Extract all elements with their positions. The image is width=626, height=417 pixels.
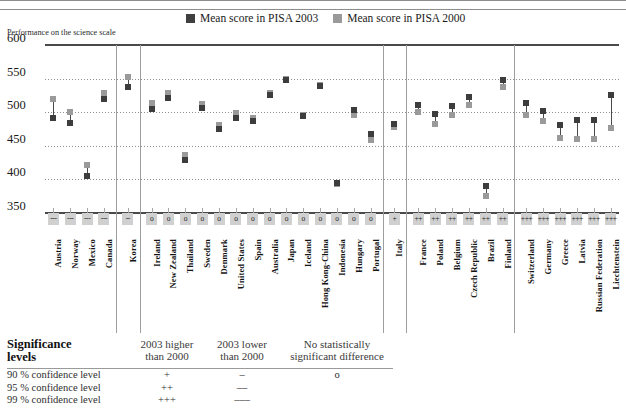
significance-marker: o (197, 213, 208, 225)
data-point-pisa-2003 (67, 120, 73, 126)
category-column-france[interactable]: ++France (410, 213, 426, 225)
category-column-norway[interactable]: ---Norway (62, 213, 78, 225)
axis-tick-mark (337, 208, 338, 213)
data-point-pisa-2003 (391, 121, 397, 127)
axis-tick-mark (70, 208, 71, 213)
category-label: Hungary (354, 239, 364, 273)
data-point-pisa-2000 (449, 112, 455, 118)
data-point-pisa-2000 (432, 121, 438, 127)
axis-tick-mark (486, 208, 487, 213)
series-legend: Mean score in PISA 2003 Mean score in PI… (186, 11, 465, 25)
category-column-germany[interactable]: +++Germany (535, 213, 551, 225)
axis-tick-mark (128, 208, 129, 213)
category-column-united-states[interactable]: oUnited States (228, 213, 244, 225)
category-column-thailand[interactable]: oThailand (177, 213, 193, 225)
group-separator-label-3 (383, 205, 384, 333)
data-point-pisa-2003 (283, 77, 289, 83)
data-point-pisa-2003 (415, 102, 421, 108)
significance-rows: 90 % confidence level+–o95 % confidence … (7, 369, 397, 407)
data-point-pisa-2003 (500, 77, 506, 83)
category-column-indonesia[interactable]: oIndonesia (329, 213, 345, 225)
axis-tick-mark (469, 208, 470, 213)
gridline-500 (45, 112, 619, 113)
axis-tick-mark (611, 208, 612, 213)
data-point-pisa-2003 (591, 117, 597, 123)
data-point-pisa-2003 (182, 157, 188, 163)
category-column-denmark[interactable]: oDenmark (211, 213, 227, 225)
category-column-new-zealand[interactable]: oNew Zealand (160, 213, 176, 225)
significance-marker: o (348, 213, 359, 225)
axis-tick-mark (452, 208, 453, 213)
data-point-pisa-2003 (199, 105, 205, 111)
significance-marker: o (331, 213, 342, 225)
category-column-canada[interactable]: ---Canada (96, 213, 112, 225)
col-higher-line1: 2003 higher (129, 338, 205, 350)
significance-marker: +++ (538, 213, 549, 225)
category-column-liechtenstein[interactable]: +++Liechtenstein (603, 213, 619, 225)
significance-col-header-higher: 2003 higher than 2000 (129, 338, 205, 362)
category-column-brazil[interactable]: ++Brazil (478, 213, 494, 225)
data-point-pisa-2000 (523, 112, 529, 118)
category-label: Denmark (219, 239, 229, 275)
category-label: United States (236, 239, 246, 289)
data-point-pisa-2000 (415, 109, 421, 115)
category-column-switzerland[interactable]: +++Switzerland (518, 213, 534, 225)
category-column-iceland[interactable]: oIceland (295, 213, 311, 225)
axis-tick-mark (219, 208, 220, 213)
category-column-greece[interactable]: +++Greece (552, 213, 568, 225)
category-column-poland[interactable]: ++Poland (427, 213, 443, 225)
axis-tick-mark (594, 208, 595, 213)
category-label: Iceland (303, 239, 313, 267)
axis-tick-mark (53, 208, 54, 213)
category-column-ireland[interactable]: oIreland (144, 213, 160, 225)
data-point-pisa-2003 (149, 106, 155, 112)
data-point-pisa-2000 (500, 84, 506, 90)
significance-title-line2: levels (7, 351, 129, 364)
category-column-austria[interactable]: ---Austria (45, 213, 61, 225)
significance-row: 95 % confidence level++–– (7, 382, 397, 395)
significance-symbol-higher: ++ (129, 382, 205, 395)
legend-item-pisa-2003: Mean score in PISA 2003 (186, 12, 318, 24)
axis-tick-mark (236, 208, 237, 213)
top-rule-lower (0, 9, 626, 10)
significance-symbol-lower: –– (205, 382, 279, 395)
data-point-pisa-2003 (368, 131, 374, 137)
group-separator-label-1 (116, 205, 117, 333)
significance-header-row: Significance levels 2003 higher than 200… (7, 338, 397, 364)
category-column-latvia[interactable]: +++Latvia (569, 213, 585, 225)
data-point-pisa-2000 (368, 137, 374, 143)
pisa-science-chart: Mean score in PISA 2003 Mean score in PI… (0, 0, 626, 417)
col-lower-line1: 2003 lower (205, 338, 279, 350)
gridline-550 (45, 79, 619, 80)
category-column-portugal[interactable]: oPortugal (363, 213, 379, 225)
axis-tick-mark (543, 208, 544, 213)
axis-tick-mark (202, 208, 203, 213)
significance-symbol-higher: +++ (129, 394, 205, 407)
category-column-belgium[interactable]: ++Belgium (444, 213, 460, 225)
significance-marker: --- (82, 213, 93, 225)
data-point-pisa-2003 (608, 92, 614, 98)
category-column-korea[interactable]: --Korea (120, 213, 136, 225)
significance-marker: --- (48, 213, 59, 225)
category-column-mexico[interactable]: ---Mexico (79, 213, 95, 225)
category-column-spain[interactable]: oSpain (245, 213, 261, 225)
category-column-czech-republic[interactable]: ++Czech Republic (461, 213, 477, 225)
data-point-pisa-2003 (216, 126, 222, 132)
significance-marker: o (365, 213, 376, 225)
confidence-level-label: 99 % confidence level (7, 394, 129, 407)
category-column-finland[interactable]: ++Finland (495, 213, 511, 225)
category-column-japan[interactable]: oJapan (278, 213, 294, 225)
data-point-pisa-2003 (334, 180, 340, 186)
legend-label-pisa-2000: Mean score in PISA 2000 (347, 12, 465, 24)
category-column-hungary[interactable]: oHungary (346, 213, 362, 225)
category-label: Portugal (371, 239, 381, 272)
category-column-australia[interactable]: oAustralia (262, 213, 278, 225)
axis-tick-mark (371, 208, 372, 213)
category-column-italy[interactable]: +Italy (386, 213, 402, 225)
category-column-russian-federation[interactable]: +++Russian Federation (586, 213, 602, 225)
data-point-pisa-2003 (317, 83, 323, 89)
category-column-sweden[interactable]: oSweden (194, 213, 210, 225)
category-column-hong-kong-china[interactable]: oHong Kong-China (312, 213, 328, 225)
legend-item-pisa-2000: Mean score in PISA 2000 (333, 12, 465, 24)
data-point-pisa-2003 (466, 94, 472, 100)
